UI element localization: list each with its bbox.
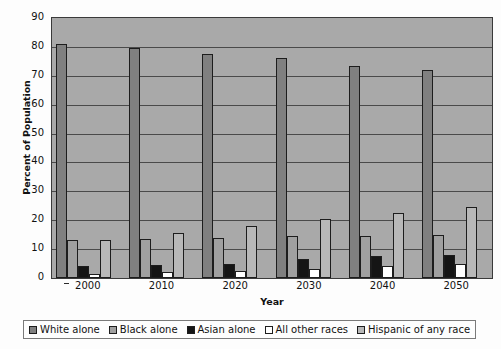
legend-item[interactable]: Asian alone bbox=[187, 324, 256, 335]
chart-legend: White aloneBlack aloneAsian aloneAll oth… bbox=[23, 320, 476, 339]
y-tick-label: 90 bbox=[18, 11, 44, 23]
bar bbox=[320, 219, 331, 278]
y-tick-label: 0 bbox=[18, 271, 44, 283]
bar-group bbox=[52, 18, 125, 278]
legend-swatch-icon bbox=[265, 326, 273, 334]
legend-item[interactable]: Black alone bbox=[109, 324, 178, 335]
x-tick-label: 2030 bbox=[272, 280, 346, 291]
bar bbox=[433, 235, 444, 278]
bar bbox=[422, 70, 433, 278]
bar bbox=[309, 269, 320, 278]
bar bbox=[151, 265, 162, 278]
bar bbox=[89, 274, 100, 278]
y-axis-ticks: 9080706050403020100 bbox=[18, 11, 44, 283]
bar-group bbox=[272, 18, 345, 278]
x-tick-label: 2000 bbox=[51, 280, 125, 291]
bar bbox=[276, 58, 287, 278]
bar-group bbox=[125, 18, 198, 278]
bar bbox=[246, 226, 257, 278]
y-tick-label: 20 bbox=[18, 213, 44, 225]
y-tick-label: 70 bbox=[18, 69, 44, 81]
bar bbox=[298, 259, 309, 278]
bar-groups bbox=[52, 18, 492, 278]
bar bbox=[173, 233, 184, 278]
x-tick-label: 2040 bbox=[346, 280, 420, 291]
bar bbox=[162, 272, 173, 278]
bar bbox=[56, 44, 67, 278]
y-tick-label: 40 bbox=[18, 155, 44, 167]
bar-group bbox=[345, 18, 418, 278]
x-axis-ticks: 200020102020203020402050 bbox=[51, 280, 493, 291]
bar bbox=[129, 48, 140, 278]
y-tick-label: 10 bbox=[18, 242, 44, 254]
legend-item[interactable]: All other races bbox=[265, 324, 349, 335]
bar-chart: Percent of Population 908070605040302010… bbox=[0, 0, 501, 349]
bar bbox=[213, 238, 224, 278]
legend-label: Hispanic of any race bbox=[368, 324, 470, 335]
bar bbox=[224, 264, 235, 278]
bar bbox=[235, 271, 246, 278]
legend-swatch-icon bbox=[29, 326, 37, 334]
legend-item[interactable]: Hispanic of any race bbox=[357, 324, 470, 335]
x-axis-title: Year bbox=[51, 296, 493, 307]
bar bbox=[455, 264, 466, 278]
bar bbox=[466, 207, 477, 278]
y-tick-label: 50 bbox=[18, 127, 44, 139]
legend-swatch-icon bbox=[109, 326, 117, 334]
bar-group bbox=[199, 18, 272, 278]
legend-item[interactable]: White alone bbox=[29, 324, 100, 335]
legend-swatch-icon bbox=[187, 326, 195, 334]
bar bbox=[360, 236, 371, 278]
bar bbox=[100, 240, 111, 278]
legend-label: Asian alone bbox=[198, 324, 256, 335]
bar bbox=[202, 54, 213, 278]
bar bbox=[371, 256, 382, 278]
plot-area bbox=[51, 17, 493, 279]
bar bbox=[78, 266, 89, 278]
bar bbox=[382, 266, 393, 278]
bar-group bbox=[419, 18, 492, 278]
x-tick-label: 2050 bbox=[419, 280, 493, 291]
legend-label: Black alone bbox=[120, 324, 178, 335]
bar bbox=[67, 240, 78, 278]
bar bbox=[393, 213, 404, 278]
legend-label: All other races bbox=[276, 324, 349, 335]
x-tick-label: 2010 bbox=[125, 280, 199, 291]
legend-label: White alone bbox=[40, 324, 100, 335]
y-tick-label: 80 bbox=[18, 40, 44, 52]
y-tick-label: 30 bbox=[18, 184, 44, 196]
y-tick-label: 60 bbox=[18, 98, 44, 110]
x-tick-label: 2020 bbox=[198, 280, 272, 291]
bar bbox=[287, 236, 298, 278]
bar bbox=[140, 239, 151, 278]
bar bbox=[349, 66, 360, 278]
legend-swatch-icon bbox=[357, 326, 365, 334]
bar bbox=[444, 255, 455, 278]
